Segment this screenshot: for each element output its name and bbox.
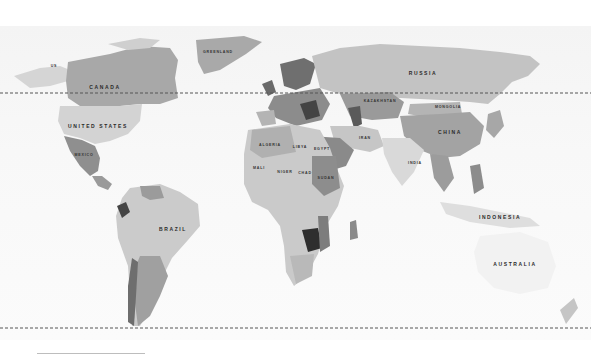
country-label-niger: NIGER: [277, 170, 292, 174]
uk: [262, 80, 276, 96]
country-label-greenland: GREENLAND: [203, 50, 233, 54]
southeast-asia: [430, 154, 454, 192]
country-label-indonesia: INDONESIA: [479, 214, 521, 220]
argentina: [134, 256, 168, 326]
japan: [486, 110, 504, 138]
world-map: [0, 26, 591, 340]
country-label-mali: MALI: [253, 166, 265, 170]
country-label-libya: LIBYA: [293, 145, 307, 149]
caspian-region: [348, 106, 362, 128]
country-label-brazil: BRAZIL: [159, 226, 187, 232]
country-label-canada: CANADA: [89, 84, 120, 90]
country-label-china: CHINA: [438, 129, 462, 135]
world-map-graphic: [0, 26, 591, 340]
country-label-kazakhstan: KAZAKHSTAN: [364, 99, 397, 103]
oceania: [474, 232, 578, 324]
country-label-russia: RUSSIA: [409, 70, 438, 76]
madagascar: [350, 220, 358, 240]
country-label-algeria: ALGERIA: [259, 143, 281, 147]
country-label-mexico: MEXICO: [75, 153, 94, 157]
canada: [66, 46, 178, 106]
country-label-egypt: EGYPT: [314, 147, 330, 151]
scandinavia: [280, 58, 316, 90]
mozambique: [318, 216, 330, 252]
country-label-iran: IRAN: [359, 136, 371, 140]
country-label-australia: AUSTRALIA: [493, 261, 536, 267]
central-europe: [268, 88, 330, 126]
central-america: [92, 176, 112, 190]
philippines: [470, 164, 484, 194]
south-america: [116, 184, 200, 326]
north-america: [14, 36, 262, 190]
iberia: [256, 110, 276, 126]
bottom-rule: [37, 353, 145, 354]
country-label-sudan: SUDAN: [318, 176, 335, 180]
greenland: [196, 36, 262, 74]
alaska: [14, 66, 70, 88]
country-label-chad: CHAD: [298, 171, 312, 175]
country-label-us-alaska: US: [51, 64, 58, 68]
country-label-mongolia: MONGOLIA: [435, 105, 461, 109]
kazakhstan: [340, 92, 404, 120]
country-label-united-states: UNITED STATES: [68, 123, 128, 129]
new-zealand: [560, 298, 578, 324]
algeria: [250, 126, 296, 158]
country-label-india: INDIA: [408, 161, 422, 165]
